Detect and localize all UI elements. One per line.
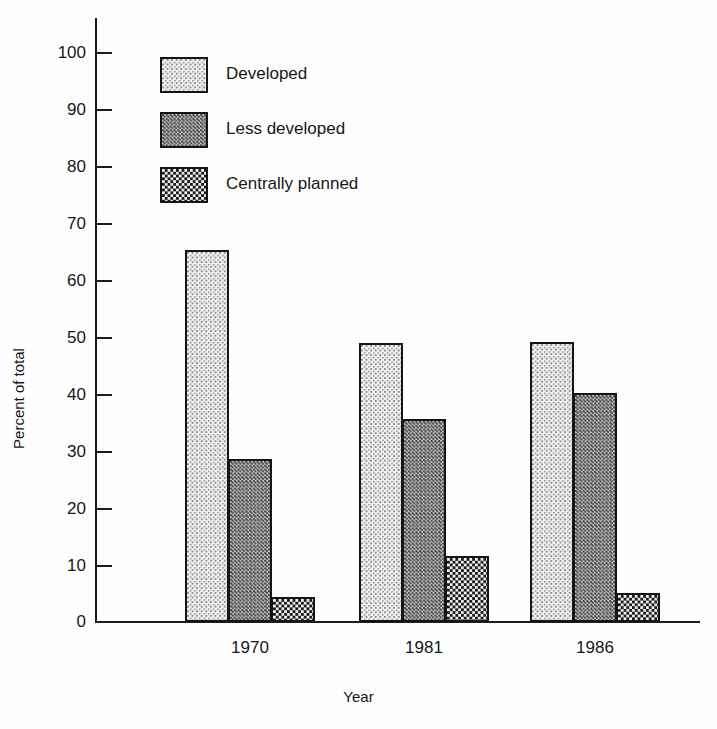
y-axis-tick	[97, 109, 112, 111]
legend-swatch-developed-icon	[160, 57, 208, 93]
bar-1986-developed[interactable]	[530, 342, 574, 622]
y-axis-tick-label: 100	[46, 44, 86, 62]
y-axis-tick	[97, 394, 112, 396]
bar-1970-developed[interactable]	[185, 250, 229, 622]
chart-page: 100 90 80 70 60 50 40 30	[0, 0, 717, 729]
y-axis-tick-label: 50	[46, 329, 86, 347]
bar-1970-centrally-planned[interactable]	[271, 597, 315, 622]
bar-1970-less-developed[interactable]	[228, 459, 272, 622]
y-axis-tick-label: 0	[46, 613, 86, 631]
bar-1981-centrally-planned[interactable]	[445, 556, 489, 622]
y-axis-tick-label-text: 50	[50, 329, 86, 346]
legend-label-centrally-planned: Centrally planned	[226, 174, 358, 194]
y-axis-tick-label: 70	[46, 215, 86, 233]
bar-1986-less-developed[interactable]	[573, 393, 617, 622]
legend-swatch-less-developed-icon	[160, 112, 208, 148]
x-axis-group-label-1986: 1986	[530, 638, 660, 658]
y-axis-tick-label: 40	[46, 386, 86, 404]
y-axis-tick	[97, 451, 112, 453]
x-axis-group-label-1981: 1981	[359, 638, 489, 658]
y-axis-title: Percent of total	[10, 319, 27, 479]
legend-label-developed: Developed	[226, 64, 307, 84]
y-axis-tick-label-text: 0	[50, 613, 86, 630]
y-axis-tick-label-text: 60	[50, 272, 86, 289]
y-axis-tick-label: 60	[46, 272, 86, 290]
y-axis-tick	[97, 508, 112, 510]
y-axis-tick-label-text: 30	[50, 443, 86, 460]
x-axis-group-label-1970: 1970	[185, 638, 315, 658]
bar-chart-plot-area: 100 90 80 70 60 50 40 30	[0, 0, 717, 729]
y-axis-tick-label-text: 10	[50, 557, 86, 574]
y-axis-tick-label: 80	[46, 158, 86, 176]
x-axis-title: Year	[0, 688, 717, 705]
legend-swatch-centrally-planned-icon	[160, 167, 208, 203]
y-axis-tick-label-text: 100	[50, 44, 86, 61]
y-axis-tick	[97, 52, 112, 54]
y-axis-tick	[97, 223, 112, 225]
y-axis-tick-label-text: 70	[50, 215, 86, 232]
bar-1981-less-developed[interactable]	[402, 419, 446, 622]
bar-1986-centrally-planned[interactable]	[616, 593, 660, 622]
y-axis-tick	[97, 280, 112, 282]
y-axis-tick-label-text: 90	[50, 101, 86, 118]
y-axis-tick-label: 10	[46, 557, 86, 575]
legend-label-less-developed: Less developed	[226, 119, 345, 139]
y-axis-tick-label: 90	[46, 101, 86, 119]
y-axis-tick	[97, 337, 112, 339]
y-axis-tick-label-text: 80	[50, 158, 86, 175]
y-axis-tick	[97, 565, 112, 567]
y-axis-tick-label: 30	[46, 443, 86, 461]
y-axis-tick-label: 20	[46, 500, 86, 518]
y-axis-tick	[97, 166, 112, 168]
bar-1981-developed[interactable]	[359, 343, 403, 622]
y-axis-tick-label-text: 20	[50, 500, 86, 517]
y-axis-tick-label-text: 40	[50, 386, 86, 403]
